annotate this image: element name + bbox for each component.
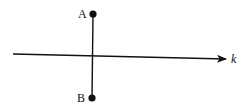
point-a-label: A — [78, 7, 87, 21]
point-b-label: B — [77, 91, 85, 105]
diagram-canvas: k A B — [0, 0, 245, 105]
line-k — [13, 54, 226, 59]
point-a-dot — [89, 10, 96, 17]
segment-ab — [92, 14, 93, 98]
point-b-dot — [88, 94, 95, 101]
line-k-label: k — [231, 52, 237, 66]
